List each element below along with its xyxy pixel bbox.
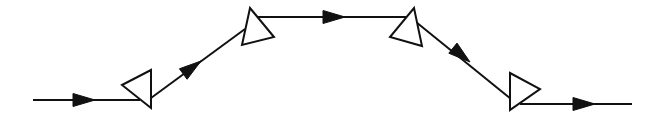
arrowhead-icon — [179, 61, 201, 79]
prism-beam-diagram — [0, 0, 667, 123]
prism-3-triangle-icon — [390, 8, 422, 46]
prisms — [122, 8, 540, 110]
arrowhead-icon — [323, 11, 345, 24]
arrowhead-icon — [573, 98, 595, 111]
beams — [33, 17, 632, 104]
arrowhead-icon — [73, 94, 95, 107]
prism-1-triangle-icon — [122, 70, 151, 108]
beam-prism3-to-prism4 — [416, 22, 511, 99]
arrowhead-icon — [449, 43, 470, 62]
prism-2-triangle-icon — [242, 8, 274, 45]
